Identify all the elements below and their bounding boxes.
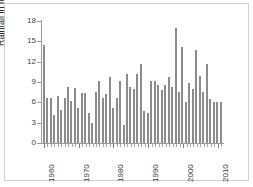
x-axis-tick [58,144,59,147]
y-axis-tick-label: 6 [6,98,36,106]
y-axis-tick [37,123,41,124]
bar [157,85,159,143]
y-axis-tick [37,102,41,103]
bar [88,113,90,144]
x-axis-tick-major [218,144,219,148]
x-axis-tick [86,144,87,147]
bar [206,64,208,143]
x-axis-tick [155,144,156,147]
x-axis-tick [47,144,48,147]
bar-slot [219,21,222,143]
y-axis-tick [37,143,41,144]
bar [199,76,201,143]
bar [213,102,215,143]
x-axis-tick-major [148,144,149,148]
x-axis-tick [200,144,201,147]
x-axis-tick [124,144,125,147]
bar [102,98,104,143]
bar [105,94,107,143]
bar [209,99,211,143]
x-axis-tick [176,144,177,147]
x-axis-tick-label: 2010 [222,164,230,182]
bar [147,113,149,143]
bar [119,81,121,143]
bar [46,98,48,143]
bar [140,64,142,143]
x-axis-tick-major [183,144,184,148]
y-axis-tick [37,82,41,83]
bar [185,102,187,143]
x-axis-tick [75,144,76,147]
x-axis-tick [190,144,191,147]
y-axis-tick [37,21,41,22]
bar [161,90,163,143]
x-axis-tick [82,144,83,147]
bar [126,74,128,143]
y-axis-tick-labels: 0369121518 [2,0,36,187]
chart-screenshot: Rainfall in mm 0369121518 19601970198019… [0,0,253,187]
x-axis-tick [166,144,167,147]
bar [220,102,222,143]
x-axis-tick [72,144,73,147]
x-axis-tick [103,144,104,147]
x-axis-tick-label: 2000 [187,164,195,182]
x-axis-tick [61,144,62,147]
bar [154,81,156,143]
bar [84,93,86,143]
y-axis-tick-label: 15 [6,37,36,45]
plot-area [42,21,223,143]
bar [74,88,76,143]
y-axis-tick-label: 9 [6,78,36,86]
x-axis-tick [180,144,181,147]
bar [50,98,52,143]
y-axis-tick-label: 0 [6,139,36,147]
y-axis-tick [37,62,41,63]
x-axis-tick [159,144,160,147]
bar [188,83,190,143]
y-axis-tick-label: 12 [6,58,36,66]
x-axis-tick [187,144,188,147]
x-axis-tick-label: 1990 [152,164,160,182]
x-axis-tick [51,144,52,147]
bar [57,96,59,143]
bar [129,87,131,143]
x-axis-tick [197,144,198,147]
x-axis-tick [211,144,212,147]
x-axis-tick [173,144,174,147]
x-axis-tick [110,144,111,147]
x-axis-tick [65,144,66,147]
bar [116,98,118,143]
bar [164,85,166,143]
bar [136,74,138,143]
x-axis-tick [117,144,118,147]
bar [171,87,173,143]
bar [43,45,45,143]
x-axis-tick-label: 1960 [48,164,56,182]
bar [181,47,183,143]
x-axis-tick [68,144,69,147]
x-axis-tick [141,144,142,147]
bar [60,110,62,143]
y-axis-tick-label: 3 [6,119,36,127]
x-axis-tick-label: 1980 [117,164,125,182]
x-axis-tick [193,144,194,147]
x-axis-tick [145,144,146,147]
x-axis-tick [169,144,170,147]
x-axis-tick [152,144,153,147]
x-axis-tick [93,144,94,147]
y-axis-tick [37,41,41,42]
x-axis-tick [120,144,121,147]
x-axis-tick-label: 1970 [83,164,91,182]
x-axis-tick [207,144,208,147]
x-axis-tick [127,144,128,147]
bar [91,123,93,143]
bar [178,92,180,144]
bar [67,87,69,143]
x-axis-tick [89,144,90,147]
x-axis-tick [134,144,135,147]
x-axis-tick [204,144,205,147]
bar [168,77,170,143]
x-axis-tick-major [44,144,45,148]
bar [195,50,197,143]
bar [192,89,194,143]
